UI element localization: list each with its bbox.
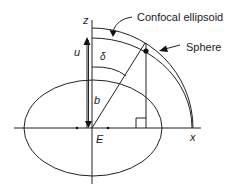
E-label: E [96,133,104,145]
delta-angle-arc [92,67,126,76]
x-axis-label: x [189,131,196,143]
point-marker [143,48,148,53]
sphere-arc [92,28,193,128]
sphere-label: Sphere [186,41,221,53]
z-axis-label: z [82,14,89,26]
confocal-pointer-arrowhead-icon [110,30,117,37]
confocal-ellipsoid-pointer [113,17,132,31]
right-angle-marker [136,118,146,128]
confocal-ellipsoid-label: Confocal ellipsoid [137,11,223,23]
focus-left-dot [76,127,79,130]
u-label: u [74,46,80,58]
ellipsoid-coordinates-diagram: z x u δ b E Confocal ellipsoid Sphere [0,0,232,192]
b-label: b [94,94,100,106]
confocal-ellipsoid-arc [92,38,192,128]
sphere-pointer [165,45,180,49]
focus-right-dot [107,127,110,130]
sphere-pointer-arrowhead-icon [159,46,168,53]
u-arrowhead-icon [84,37,91,45]
b-arrowhead-icon [85,121,92,128]
delta-label: δ [100,51,106,62]
